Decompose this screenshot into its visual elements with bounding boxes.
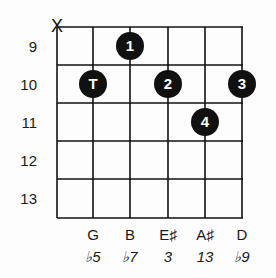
finger-dot-1: 1 (116, 32, 144, 60)
string-note-g: G (78, 226, 108, 243)
finger-dot-3: 3 (228, 70, 256, 98)
interval-3: 3 (151, 248, 185, 265)
finger-dot-2: 2 (154, 70, 182, 98)
interval-flat5: ♭5 (76, 248, 110, 266)
string-note-b: B (115, 226, 145, 243)
finger-dot-thumb: T (79, 70, 107, 98)
fret-label-10: 10 (7, 76, 37, 93)
finger-dot-4: 4 (191, 108, 219, 136)
string-note-e-sharp: E♯ (153, 226, 183, 243)
fret-label-12: 12 (7, 152, 37, 169)
fret-label-11: 11 (7, 114, 37, 131)
interval-flat7: ♭7 (113, 248, 147, 266)
muted-string-marker: X (51, 17, 63, 35)
string-note-a-sharp: A♯ (190, 226, 220, 243)
interval-flat9: ♭9 (225, 248, 259, 266)
interval-13: 13 (188, 248, 222, 265)
fret-label-9: 9 (7, 38, 37, 55)
string-note-d: D (227, 226, 257, 243)
fret-label-13: 13 (7, 190, 37, 207)
